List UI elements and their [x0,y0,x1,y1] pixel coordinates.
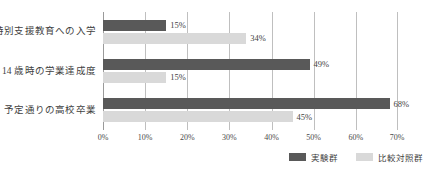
legend-item-experimental: 実験群 [289,151,338,163]
bar-row-control: 34% [103,33,398,44]
bar-row-experimental: 68% [103,98,398,109]
bar-control-0 [103,33,246,44]
bar-group-2: 68% 45% [103,95,398,125]
bar-row-control: 15% [103,72,398,83]
x-tick-label-40: 40% [264,133,279,142]
x-tick-label-0: 0% [98,133,109,142]
plot-area: 15% 34% 49% 15% [103,12,398,130]
legend-label-control: 比較対照群 [378,151,423,163]
bar-value-experimental-0: 15% [166,20,186,30]
category-label: 14 歳時の学業達成度 [2,66,96,76]
bar-experimental-2 [103,98,390,109]
bar-row-control: 45% [103,111,398,122]
x-axis: 0% 10% 20% 30% 40% 50% 60% 70% [103,130,398,146]
bar-group-1: 49% 15% [103,56,398,86]
bar-value-experimental-1: 49% [310,59,330,69]
bar-row-experimental: 15% [103,20,398,31]
bar-groups: 15% 34% 49% 15% [103,12,398,130]
bar-experimental-0 [103,20,166,31]
x-tick-label-50: 50% [306,133,321,142]
legend-label-experimental: 実験群 [311,151,338,163]
bar-value-control-1: 15% [166,72,186,82]
x-tick-label-60: 60% [349,133,364,142]
category-label: 特別支援教育への入学 [0,26,96,36]
x-tick-label-70: 70% [390,133,405,142]
bar-row-experimental: 49% [103,59,398,70]
category-axis-labels: 特別支援教育への入学 14 歳時の学業達成度 予定通りの高校卒業 [0,12,100,130]
bar-chart: 特別支援教育への入学 14 歳時の学業達成度 予定通りの高校卒業 15% [0,0,429,170]
category-label: 予定通りの高校卒業 [4,105,96,115]
bar-control-2 [103,111,293,122]
bar-control-1 [103,72,166,83]
legend-item-control: 比較対照群 [356,151,423,163]
chart-legend: 実験群 比較対照群 [0,150,423,164]
legend-swatch-icon [289,153,306,161]
bar-experimental-1 [103,59,310,70]
x-tick-label-30: 30% [222,133,237,142]
bar-value-control-2: 45% [293,112,313,122]
legend-swatch-icon [356,153,373,161]
bar-value-control-0: 34% [246,33,266,43]
x-tick-label-10: 10% [138,133,153,142]
bar-group-0: 15% 34% [103,17,398,47]
x-tick-label-20: 20% [180,133,195,142]
bar-value-experimental-2: 68% [390,99,410,109]
